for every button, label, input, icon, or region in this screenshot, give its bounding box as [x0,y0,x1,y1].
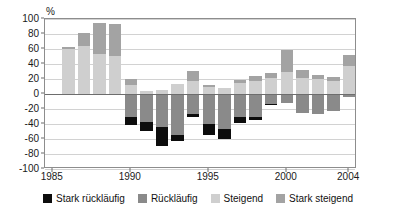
bar-group-1989[interactable] [109,19,121,167]
bar-segment-2001-starksteigend [296,70,308,78]
y-tick-label-60: 60 [0,43,44,54]
bar-group-1990[interactable] [125,19,137,167]
bar-group-1987[interactable] [78,19,90,167]
plot-inner [45,19,355,167]
bar-segment-2000-ruecklaeufig [281,94,293,103]
bar-group-1994[interactable] [187,19,199,167]
y-tick-label-20: 20 [0,73,44,84]
bar-segment-1999-starkrueck [265,104,277,106]
bar-segment-1994-ruecklaeufig [187,94,199,114]
bar-segment-1995-starksteigend [203,85,215,87]
y-tick-label--20: -20 [0,103,44,114]
bar-segment-2000-steigend [281,72,293,95]
bar-segment-2003-steigend [327,81,339,95]
bar-segment-1990-ruecklaeufig [125,94,137,117]
bar-segment-1998-starkrueck [249,117,261,121]
y-tick-mark--80 [41,153,44,154]
legend-item-3[interactable]: Stark steigend [276,193,353,204]
x-tick-mark-1985 [51,168,52,172]
y-tick-label-40: 40 [0,58,44,69]
plot-area [44,18,356,168]
y-tick-mark-20 [41,78,44,79]
y-tick-mark-100 [41,18,44,19]
bar-group-1988[interactable] [93,19,105,167]
legend-item-0[interactable]: Stark rückläufig [43,193,125,204]
bar-segment-2003-starksteigend [327,77,339,81]
legend-item-2[interactable]: Steigend [211,193,263,204]
y-tick-label--40: -40 [0,118,44,129]
y-tick-label--100: -100 [0,163,44,174]
legend-swatch-icon-2 [211,194,220,203]
x-tick-label-2000: 2000 [275,171,297,182]
bar-segment-1992-ruecklaeufig [156,94,168,127]
bar-segment-2004-steigend [343,66,355,95]
bar-segment-2001-ruecklaeufig [296,94,308,113]
legend-swatch-icon-1 [138,194,147,203]
bar-segment-1993-starkrueck [171,135,183,141]
bar-segment-2000-starksteigend [281,50,293,72]
x-tick-mark-1990 [129,168,130,172]
bar-segment-1999-steigend [265,78,277,94]
bar-group-1993[interactable] [171,19,183,167]
y-tick-label-0: 0 [0,88,44,99]
bar-group-1997[interactable] [234,19,246,167]
x-tick-label-1985: 1985 [41,171,63,182]
y-tick-label-100: 100 [0,13,44,24]
bar-group-1995[interactable] [203,19,215,167]
bar-group-1986[interactable] [62,19,74,167]
bar-group-2002[interactable] [312,19,324,167]
x-tick-mark-2000 [285,168,286,172]
bar-segment-1987-starksteigend [78,33,90,47]
bar-segment-1991-starkrueck [140,122,152,131]
bar-segment-2004-starksteigend [343,55,355,66]
bar-segment-1994-steigend [187,81,199,95]
legend-label-1: Rückläufig [151,193,198,204]
bar-segment-1998-ruecklaeufig [249,94,261,117]
bar-segment-1990-steigend [125,85,137,94]
bar-segment-2002-ruecklaeufig [312,94,324,114]
bar-segment-1999-starksteigend [265,73,277,78]
bar-group-1996[interactable] [218,19,230,167]
bar-segment-1986-starksteigend [62,47,74,49]
legend-swatch-icon-0 [43,194,52,203]
bar-group-1998[interactable] [249,19,261,167]
y-tick-mark--20 [41,108,44,109]
legend-item-1[interactable]: Rückläufig [138,193,198,204]
bar-group-2001[interactable] [296,19,308,167]
bar-group-2000[interactable] [281,19,293,167]
bar-segment-1997-starkrueck [234,117,246,123]
bar-group-2003[interactable] [327,19,339,167]
bar-segment-1996-starkrueck [218,129,230,139]
bar-segment-1990-starksteigend [125,79,137,85]
legend-label-2: Steigend [224,193,263,204]
x-tick-label-1990: 1990 [119,171,141,182]
x-tick-mark-1995 [207,168,208,172]
bar-segment-1994-starksteigend [187,71,199,81]
stacked-bar-chart: % 100806040200-20-40-60-80-100 198519901… [0,0,396,222]
bar-group-1992[interactable] [156,19,168,167]
bar-segment-2002-starksteigend [312,75,324,80]
bar-group-1999[interactable] [265,19,277,167]
bar-segment-1999-ruecklaeufig [265,94,277,104]
bar-segment-1991-ruecklaeufig [140,94,152,122]
bar-segment-1995-ruecklaeufig [203,94,215,124]
bar-segment-1997-ruecklaeufig [234,94,246,117]
y-axis-unit-label: % [46,6,55,17]
bar-group-1991[interactable] [140,19,152,167]
y-tick-label--60: -60 [0,133,44,144]
bar-group-2004[interactable] [343,19,355,167]
bar-segment-1993-steigend [171,84,183,94]
bar-segment-1986-steigend [62,49,74,94]
y-tick-mark--100 [41,168,44,169]
y-tick-label-80: 80 [0,28,44,39]
y-tick-mark-60 [41,48,44,49]
y-tick-mark--40 [41,123,44,124]
gridline--100 [45,169,355,170]
y-tick-mark-0 [41,93,44,94]
legend-label-0: Stark rückläufig [56,193,125,204]
bar-segment-1992-starkrueck [156,127,168,146]
bar-segment-1987-steigend [78,46,90,94]
bar-segment-1998-steigend [249,81,261,95]
zero-baseline [45,94,355,95]
bar-segment-1995-starkrueck [203,124,215,135]
